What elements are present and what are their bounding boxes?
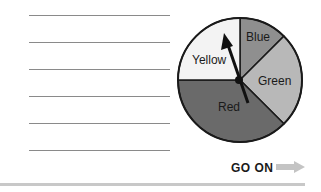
label-blue: Blue	[246, 30, 270, 44]
label-green: Green	[258, 74, 291, 88]
label-yellow: Yellow	[192, 53, 227, 67]
go-on-arrow-icon	[276, 160, 306, 174]
bottom-divider	[0, 183, 305, 186]
go-on-label: GO ON	[231, 161, 274, 175]
label-red: Red	[218, 100, 240, 114]
